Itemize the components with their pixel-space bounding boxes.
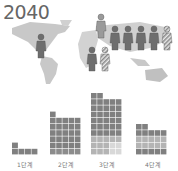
bar-cell [91, 93, 97, 99]
bar-cell [142, 130, 148, 136]
bar-cell [50, 136, 56, 142]
people-icons [36, 14, 172, 71]
category-label-4: 4단계 [138, 160, 168, 169]
bar-cell [116, 136, 122, 142]
bar-cell [12, 143, 18, 149]
bar-cell [56, 143, 62, 149]
bar-cell [56, 136, 62, 142]
bar-cell [155, 130, 161, 136]
bar-cell [62, 149, 68, 155]
bar-cell [148, 149, 154, 155]
bar-cell [136, 130, 142, 136]
bar-cell [116, 118, 122, 124]
bar-cell [110, 143, 116, 149]
bar-cell [155, 143, 161, 149]
bar-cell [142, 124, 148, 130]
person-icon [110, 26, 120, 50]
bar-cell [50, 124, 56, 130]
bar-cell [97, 99, 103, 105]
bar-cell [110, 112, 116, 118]
bar-cell [56, 149, 62, 155]
bar-cell [103, 149, 109, 155]
bar-cell [50, 118, 56, 124]
bar-cell [103, 99, 109, 105]
bar-cell [148, 136, 154, 142]
bar-cell [103, 143, 109, 149]
bar-cell [62, 136, 68, 142]
bar-cell [56, 118, 62, 124]
bar-cell [69, 124, 75, 130]
bar-cell [116, 149, 122, 155]
bar-cell [136, 124, 142, 130]
bar-cell [97, 105, 103, 111]
bar-cell [69, 143, 75, 149]
bar-cell [148, 143, 154, 149]
bar-cell [103, 112, 109, 118]
bar-cell [161, 136, 167, 142]
bar-cell [91, 149, 97, 155]
bar-cell [91, 136, 97, 142]
bar-cell [161, 143, 167, 149]
bar-cell [25, 149, 31, 155]
bar-cell [12, 149, 18, 155]
bar-cell [97, 149, 103, 155]
bar-cell [136, 136, 142, 142]
bar-cell [69, 149, 75, 155]
bar-cell [97, 118, 103, 124]
bar-cell [50, 112, 56, 118]
category-label-2: 2단계 [51, 160, 81, 169]
bar-cell [75, 118, 81, 124]
person-icon [162, 26, 172, 50]
bar-cell [62, 118, 68, 124]
bar-cell [161, 130, 167, 136]
bar-cell [69, 118, 75, 124]
bar-cell [110, 149, 116, 155]
bar-cell [136, 149, 142, 155]
bar-cell [50, 149, 56, 155]
bar-cell [56, 130, 62, 136]
waffle-bars [12, 93, 166, 154]
bar-cell [103, 105, 109, 111]
person-icon [123, 26, 133, 50]
bar-cell [142, 143, 148, 149]
bar-cell [32, 149, 38, 155]
bar-cell [103, 130, 109, 136]
bar-cell [91, 112, 97, 118]
bar-cell [91, 105, 97, 111]
bar-cell [103, 118, 109, 124]
pictogram-and-bars [0, 0, 178, 171]
category-label-1: 1단계 [10, 160, 40, 169]
person-icon [87, 47, 97, 71]
bar-cell [69, 130, 75, 136]
bar-cell [97, 130, 103, 136]
bar-cell [75, 136, 81, 142]
bar-cell [116, 105, 122, 111]
bar-cell [110, 118, 116, 124]
bar-cell [155, 149, 161, 155]
person-icon [36, 34, 46, 58]
bar-cell [116, 99, 122, 105]
bar-cell [110, 105, 116, 111]
bar-cell [136, 143, 142, 149]
bar-cell [62, 124, 68, 130]
bar-cell [142, 136, 148, 142]
bar-cell [103, 136, 109, 142]
bar-cell [97, 93, 103, 99]
bar-cell [19, 149, 25, 155]
bar-cell [97, 124, 103, 130]
bar-cell [155, 136, 161, 142]
bar-cell [69, 136, 75, 142]
person-icon [100, 47, 110, 71]
bar-cell [103, 124, 109, 130]
bar-cell [50, 143, 56, 149]
bar-cell [75, 130, 81, 136]
bar-cell [75, 124, 81, 130]
bar-cell [62, 143, 68, 149]
person-icon [136, 26, 146, 50]
bar-cell [91, 143, 97, 149]
bar-cell [110, 130, 116, 136]
bar-cell [91, 118, 97, 124]
bar-cell [116, 112, 122, 118]
bar-cell [110, 136, 116, 142]
bar-cell [97, 136, 103, 142]
